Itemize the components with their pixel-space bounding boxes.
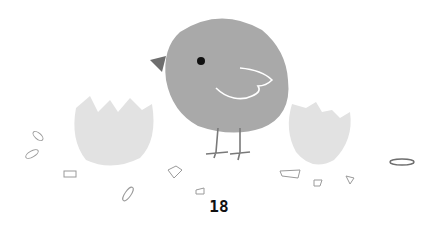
chick-eye (197, 57, 205, 65)
left-eggshell (74, 96, 153, 166)
page-number: 18 (0, 197, 438, 216)
right-eggshell (289, 102, 351, 165)
chick-illustration (0, 0, 438, 230)
chick-body (165, 18, 288, 132)
chick-legs (206, 128, 250, 160)
chick-beak (150, 56, 166, 72)
